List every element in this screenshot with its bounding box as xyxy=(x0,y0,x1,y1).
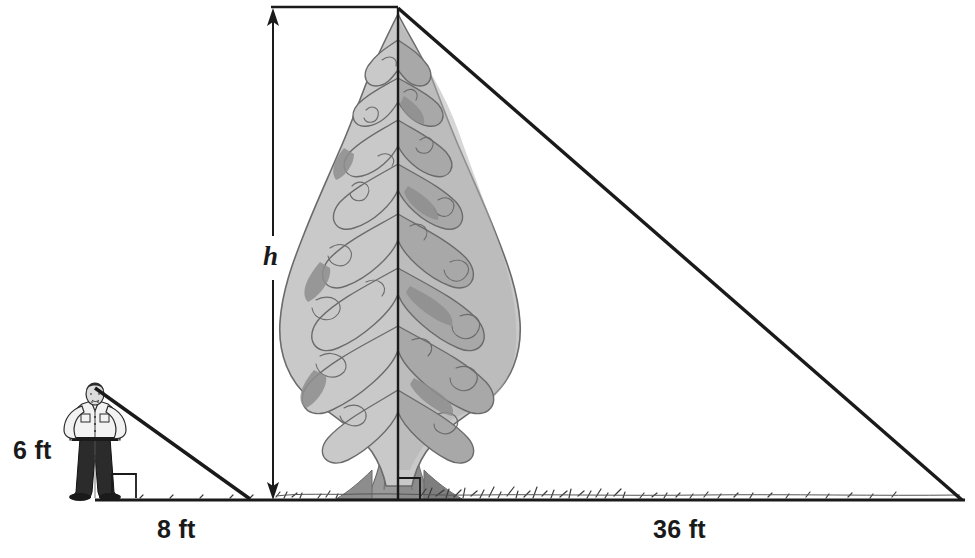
tree-foliage xyxy=(280,14,540,486)
label-tree-height: h xyxy=(263,241,278,272)
label-person-height: 6 ft xyxy=(13,436,52,465)
small-triangle xyxy=(95,388,250,499)
figure-canvas xyxy=(0,0,975,558)
similar-triangles-figure: 6 ft 8 ft 36 ft h xyxy=(0,0,975,558)
tree-illustration xyxy=(280,14,540,499)
label-tree-shadow: 36 ft xyxy=(653,515,706,544)
ground-line xyxy=(95,487,965,500)
label-person-shadow: 8 ft xyxy=(157,515,196,544)
